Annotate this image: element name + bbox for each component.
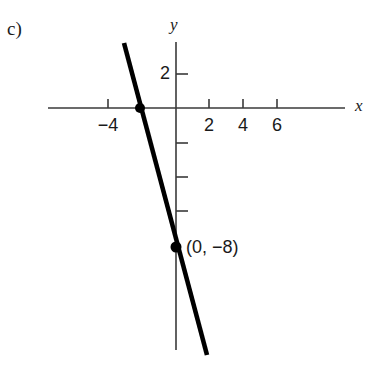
x-axis-label: x [355, 97, 363, 114]
y-tick-label-2: 2 [152, 64, 170, 82]
point-annotation-label: (0, −8) [186, 238, 239, 256]
x-tick-label-4: 4 [233, 116, 253, 134]
x-tick-label-6: 6 [267, 116, 287, 134]
y-axis-label: y [170, 16, 178, 33]
graph-figure: c) y x −4 2 4 6 2 (0, −8) [0, 0, 390, 369]
coordinate-plane-svg [0, 0, 390, 369]
y-intercept-point [171, 242, 182, 253]
x-intercept-point [135, 103, 145, 113]
plotted-line [124, 43, 207, 355]
x-tick-label-minus4: −4 [88, 116, 128, 134]
x-tick-label-2: 2 [199, 116, 219, 134]
part-label: c) [7, 19, 22, 38]
